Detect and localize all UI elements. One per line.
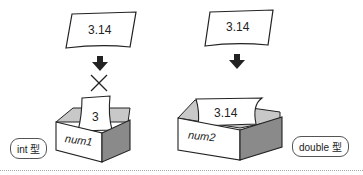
int-type-badge: int 型 [10, 138, 47, 159]
left-down-arrow-icon [92, 56, 108, 71]
right-inner-card-value: 3.14 [214, 106, 237, 120]
left-card-value: 3.14 [88, 23, 111, 37]
right-down-arrow-icon [229, 54, 245, 69]
cross-icon [91, 75, 107, 91]
bottom-divider [0, 170, 363, 171]
right-card-value: 3.14 [226, 20, 249, 34]
left-inner-card-value: 3 [92, 110, 99, 124]
double-type-badge: double 型 [292, 136, 349, 157]
